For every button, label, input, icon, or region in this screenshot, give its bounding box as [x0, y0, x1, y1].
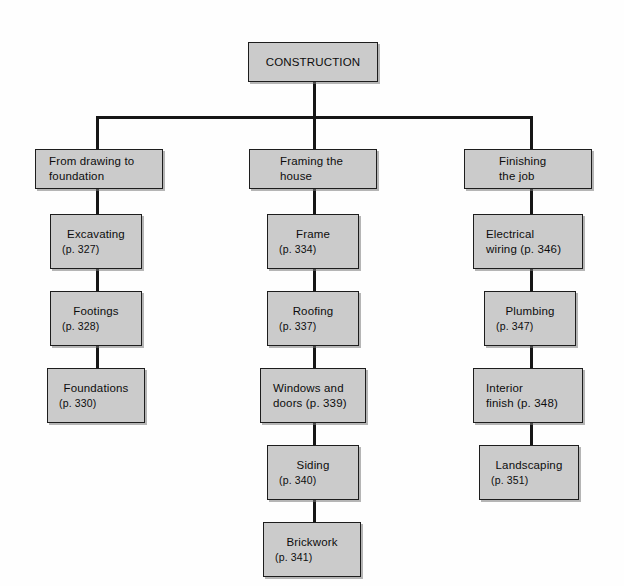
connector-right-3	[530, 423, 533, 445]
node-frame-page: (p. 334)	[268, 242, 316, 257]
node-landscaping[interactable]: Landscaping (p. 351)	[479, 445, 579, 500]
node-frame[interactable]: Frame (p. 334)	[267, 214, 359, 269]
node-footings-label: Footings	[73, 304, 118, 319]
node-plumbing-page: (p. 347)	[485, 319, 533, 334]
node-siding-label: Siding	[297, 458, 330, 473]
node-foundations-label: Foundations	[64, 381, 129, 396]
connector-bus-drop-right	[530, 116, 533, 149]
node-branch-heading-0[interactable]: From drawing to foundation	[35, 149, 163, 189]
node-roofing-page: (p. 337)	[268, 319, 316, 334]
node-plumbing[interactable]: Plumbing (p. 347)	[484, 291, 576, 346]
node-construction[interactable]: CONSTRUCTION	[248, 42, 378, 82]
connector-mid-4	[313, 500, 316, 522]
node-branch-heading-1[interactable]: Framing the house	[249, 149, 377, 189]
connector-right-1	[530, 269, 533, 291]
node-interior-finish[interactable]: Interior finish (p. 348)	[473, 368, 583, 423]
node-frame-label: Frame	[296, 227, 330, 242]
node-interior-finish-label: Interior	[486, 381, 523, 396]
node-construction-label: CONSTRUCTION	[266, 55, 360, 70]
branch-heading-2-line1: Finishing	[499, 154, 546, 169]
connector-mid-2	[313, 346, 316, 368]
node-electrical-wiring[interactable]: Electrical wiring (p. 346)	[473, 214, 583, 269]
node-branch-heading-2[interactable]: Finishing the job	[464, 149, 592, 189]
node-excavating[interactable]: Excavating (p. 327)	[50, 214, 142, 269]
node-roofing-label: Roofing	[293, 304, 334, 319]
connector-mid-1	[313, 269, 316, 291]
connector-bus-drop-middle	[313, 116, 316, 149]
connector-left-0	[96, 189, 99, 214]
node-electrical-wiring-page: wiring (p. 346)	[486, 242, 561, 257]
node-windows-and-doors[interactable]: Windows and doors (p. 339)	[260, 368, 366, 423]
node-excavating-page: (p. 327)	[51, 242, 99, 257]
branch-heading-0-line2: foundation	[49, 169, 104, 184]
node-siding-page: (p. 340)	[268, 473, 316, 488]
connector-mid-3	[313, 423, 316, 445]
node-brickwork-page: (p. 341)	[264, 550, 312, 565]
connector-root-stem	[313, 82, 316, 118]
node-plumbing-label: Plumbing	[505, 304, 554, 319]
node-landscaping-page: (p. 351)	[480, 473, 528, 488]
node-brickwork-label: Brickwork	[286, 535, 337, 550]
connector-left-1	[96, 269, 99, 291]
connector-right-2	[530, 346, 533, 368]
branch-heading-1-line2: house	[280, 169, 312, 184]
node-brickwork[interactable]: Brickwork (p. 341)	[263, 522, 361, 577]
construction-flowchart: CONSTRUCTION From drawing to foundation …	[0, 0, 624, 586]
connector-right-0	[530, 189, 533, 214]
node-footings[interactable]: Footings (p. 328)	[50, 291, 142, 346]
node-excavating-label: Excavating	[67, 227, 125, 242]
node-foundations-page: (p. 330)	[48, 396, 96, 411]
node-landscaping-label: Landscaping	[496, 458, 563, 473]
connector-left-2	[96, 346, 99, 368]
branch-heading-1-line1: Framing the	[280, 154, 343, 169]
node-windows-and-doors-page: doors (p. 339)	[273, 396, 347, 411]
node-electrical-wiring-label: Electrical	[486, 227, 534, 242]
node-foundations[interactable]: Foundations (p. 330)	[47, 368, 145, 423]
branch-heading-2-line2: the job	[499, 169, 535, 184]
node-windows-and-doors-label: Windows and	[273, 381, 344, 396]
branch-heading-0-line1: From drawing to	[49, 154, 134, 169]
node-siding[interactable]: Siding (p. 340)	[267, 445, 359, 500]
connector-mid-0	[313, 189, 316, 214]
node-footings-page: (p. 328)	[51, 319, 99, 334]
node-interior-finish-page: finish (p. 348)	[486, 396, 558, 411]
connector-bus-drop-left	[96, 116, 99, 149]
node-roofing[interactable]: Roofing (p. 337)	[267, 291, 359, 346]
